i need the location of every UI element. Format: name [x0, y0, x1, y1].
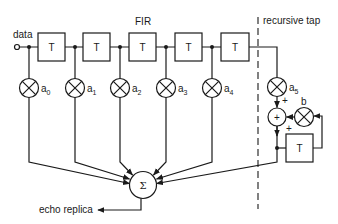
recursive-section-label: recursive tap	[263, 15, 321, 26]
feedback-coef-label: b	[301, 96, 307, 107]
svg-text:T: T	[93, 42, 99, 53]
feedback-loop-wire	[313, 116, 322, 148]
svg-text:T: T	[296, 143, 302, 154]
input-terminal	[15, 45, 20, 50]
svg-text:T: T	[185, 42, 191, 53]
adder-icon: +	[268, 108, 286, 126]
coef-label: a0	[41, 83, 51, 96]
svg-text:T: T	[232, 42, 238, 53]
multiplier-icon: a4	[203, 79, 234, 98]
summer-icon: Σ	[130, 172, 157, 199]
delay-element: T	[83, 33, 110, 61]
output-label: echo replica	[39, 204, 93, 215]
coef-label: a4	[224, 83, 234, 96]
coef-label: a5	[289, 82, 299, 95]
recursive-tap-multiplier-icon: a5	[268, 78, 299, 97]
svg-text:T: T	[48, 42, 54, 53]
coef-label: a2	[132, 83, 142, 96]
svg-text:+: +	[274, 112, 280, 123]
fir-recursive-echo-canceller-diagram: FIR recursive tap data T T T T T	[0, 0, 338, 224]
summing-wires	[29, 98, 277, 184]
multiplier-icon: a1	[66, 79, 97, 98]
delay-element: T	[175, 33, 202, 61]
fir-section-label: FIR	[135, 16, 151, 27]
recursive-delay-element: T	[286, 134, 313, 162]
delay-element: T	[38, 33, 65, 61]
multiplier-icon: a3	[157, 79, 188, 98]
delay-element: T	[129, 33, 156, 61]
adder-sign-top: +	[282, 95, 288, 106]
multiplier-icon: a2	[111, 79, 142, 98]
coef-label: a1	[87, 83, 97, 96]
svg-text:T: T	[139, 42, 145, 53]
adder-sign-right: +	[286, 123, 292, 134]
output-wire	[98, 199, 141, 211]
multiplier-icon: a0	[20, 79, 51, 98]
delay-element: T	[221, 33, 249, 61]
feedback-multiplier-icon	[295, 108, 314, 127]
input-label: data	[13, 29, 33, 40]
svg-text:Σ: Σ	[139, 180, 146, 191]
coef-label: a3	[178, 83, 188, 96]
